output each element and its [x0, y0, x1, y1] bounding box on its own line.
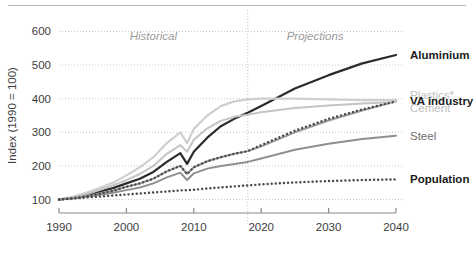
y-axis-tick-label: 300 [32, 126, 51, 138]
annotation-projections: Projections [287, 30, 344, 42]
x-axis-tick-label: 2000 [114, 221, 140, 233]
x-axis-tick-label: 1990 [46, 221, 72, 233]
x-axis-tick-label: 2020 [248, 221, 274, 233]
x-axis-tick-label: 2040 [383, 221, 409, 233]
legend-label-steel: Steel [410, 130, 436, 142]
y-axis-tick-label: 100 [32, 194, 51, 206]
line-chart: 100200300400500600Index (1990 = 100)Hist… [0, 0, 474, 254]
y-axis-tick-label: 500 [32, 59, 51, 71]
legend-label-aluminium: Aluminium [410, 49, 469, 61]
chart-container: 100200300400500600Index (1990 = 100)Hist… [0, 0, 474, 254]
series-line-aluminium [59, 55, 396, 200]
annotation-historical: Historical [130, 30, 178, 42]
y-axis-tick-label: 600 [32, 25, 51, 37]
y-axis-title: Index (1990 = 100) [6, 67, 18, 164]
x-axis-tick-label: 2010 [181, 221, 207, 233]
legend-label-population: Population [410, 173, 469, 185]
y-axis-tick-label: 400 [32, 93, 51, 105]
legend-label-cement: Cement [410, 102, 451, 114]
y-axis-tick-label: 200 [32, 160, 51, 172]
x-axis-tick-label: 2030 [316, 221, 342, 233]
